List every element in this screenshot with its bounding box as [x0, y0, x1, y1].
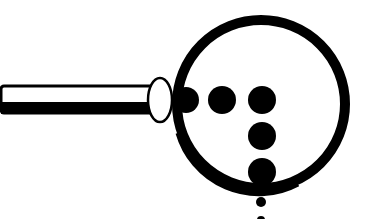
braille-dot [256, 197, 266, 207]
magnifier-ferrule [148, 78, 172, 122]
braille-dot [248, 158, 276, 186]
magnifier-handle [1, 86, 153, 114]
braille-dot [173, 87, 199, 113]
braille-dot [248, 86, 276, 114]
braille-dot [208, 86, 236, 114]
magnifying-glass-braille-illustration [0, 0, 373, 219]
braille-dot [248, 122, 276, 150]
